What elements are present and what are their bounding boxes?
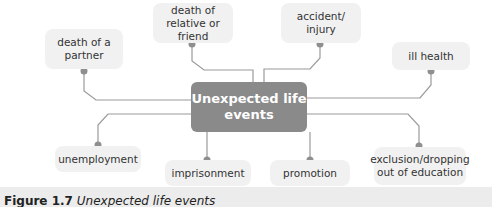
- caption-text: Unexpected life events: [77, 194, 216, 207]
- figure-caption: Figure 1.7 Unexpected life events: [0, 187, 492, 207]
- figure-number: Figure 1.7: [4, 194, 73, 207]
- node-label: exclusion/dropping out of education: [370, 153, 469, 179]
- node-label: promotion: [283, 167, 337, 180]
- node-exclusion: exclusion/dropping out of education: [374, 147, 466, 185]
- node-promotion: promotion: [270, 160, 350, 186]
- node-unemployment: unemployment: [55, 146, 141, 172]
- node-death-of-relative: death of relative or friend: [153, 3, 233, 43]
- node-ill-health: ill health: [392, 42, 470, 70]
- node-label: unemployment: [58, 153, 138, 166]
- node-death-of-partner: death of a partner: [45, 29, 123, 69]
- node-imprisonment: imprisonment: [165, 160, 251, 186]
- node-label: death of a partner: [45, 36, 123, 62]
- node-label: ill health: [408, 50, 453, 63]
- node-label: accident/ injury: [281, 10, 361, 36]
- central-label: Unexpected life events: [191, 91, 307, 123]
- mind-map: death of a partner death of relative or …: [0, 0, 492, 190]
- node-label: imprisonment: [171, 167, 244, 180]
- node-label: death of relative or friend: [153, 4, 233, 43]
- node-accident-injury: accident/ injury: [281, 3, 361, 43]
- central-node: Unexpected life events: [191, 82, 307, 132]
